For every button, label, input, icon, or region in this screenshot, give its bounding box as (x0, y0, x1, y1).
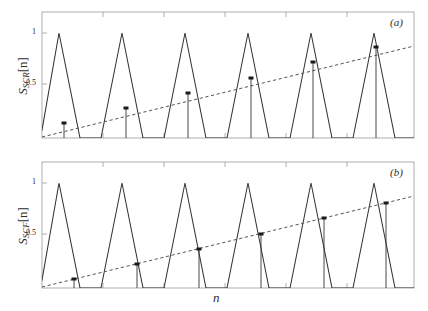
panel-a-ytick-1: 1 (22, 27, 36, 36)
panel-a-axis-frame (42, 12, 414, 138)
panel-b-ylabel: SSCF[n] (15, 181, 31, 271)
panel-a-stems (64, 47, 376, 138)
panel-a-dashed-envelope (42, 46, 414, 137)
panel-b-tag: (b) (390, 166, 403, 178)
panel-a-tag: (a) (390, 16, 403, 28)
panel-b-stems (74, 203, 386, 288)
panel-b-markers (72, 202, 389, 281)
panel-b-ytick-0: 0.5 (16, 228, 36, 237)
panel-b-ytick-1: 1 (22, 177, 36, 186)
figure-container: SSCR[n] 1 0.5 (a) (0, 0, 428, 311)
panel-b-pulse-train (38, 183, 416, 288)
x-axis-label: n (213, 290, 220, 306)
panel-a-pulse-train (38, 33, 416, 138)
panel-b-dashed-envelope (42, 196, 414, 287)
panel-b-plot (0, 0, 428, 311)
panel-a-markers (62, 46, 379, 125)
panel-a-ylabel: SSCR[n] (15, 31, 31, 121)
panel-b-axis-frame (42, 162, 414, 288)
panel-a-plot (0, 0, 428, 311)
panel-a-ytick-0: 0.5 (16, 78, 36, 87)
